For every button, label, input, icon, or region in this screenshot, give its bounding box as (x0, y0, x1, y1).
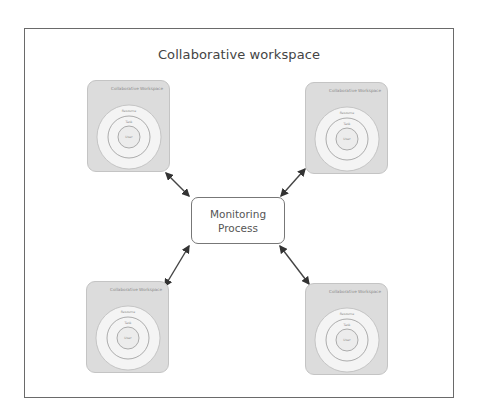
svg-text:Resource: Resource (340, 111, 355, 115)
concentric-rings-icon: Resource Task User (306, 83, 388, 174)
concentric-rings-icon: Resource Task User (306, 284, 388, 375)
svg-text:Task: Task (125, 120, 133, 124)
arrow-bottom-left (165, 246, 189, 286)
svg-text:Task: Task (124, 321, 132, 325)
concentric-rings-icon: Resource Task User (87, 282, 169, 373)
workspace-panel-top-right: Collaborative Workspace Resource Task Us… (305, 82, 388, 174)
workspace-panel-top-left: Collaborative Workspace Resource Task Us… (87, 80, 170, 172)
workspace-panel-bottom-right: Collaborative Workspace Resource Task Us… (305, 283, 388, 375)
svg-text:User: User (124, 336, 132, 340)
monitoring-process-line2: Process (218, 221, 258, 235)
concentric-rings-icon: Resource Task User (88, 81, 170, 172)
arrow-bottom-right (280, 246, 309, 284)
svg-text:Resource: Resource (340, 312, 355, 316)
svg-text:Task: Task (343, 323, 351, 327)
svg-text:Resource: Resource (121, 310, 136, 314)
arrow-top-left (166, 173, 189, 196)
monitoring-process-line1: Monitoring (210, 207, 266, 221)
svg-text:Resource: Resource (122, 109, 137, 113)
arrow-top-right (281, 169, 305, 196)
svg-text:User: User (125, 135, 133, 139)
svg-text:User: User (343, 137, 351, 141)
svg-text:User: User (343, 338, 351, 342)
svg-text:Task: Task (343, 122, 351, 126)
workspace-panel-bottom-left: Collaborative Workspace Resource Task Us… (86, 281, 169, 373)
monitoring-process-node: Monitoring Process (191, 197, 285, 244)
